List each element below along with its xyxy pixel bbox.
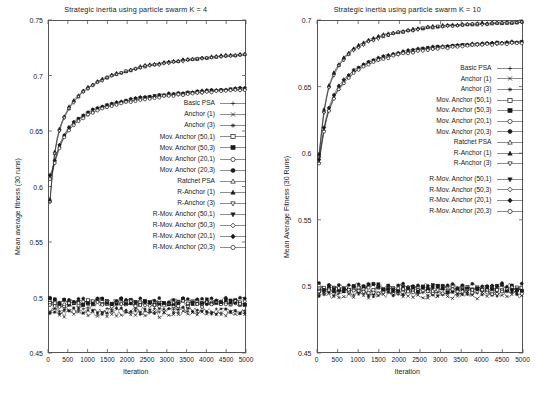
legend-item[interactable]: R-Anchor (1) — [373, 148, 525, 159]
legend-item[interactable]: Mov. Anchor (50,1) — [100, 131, 248, 142]
legend-item-label: Mov. Anchor (50,1) — [436, 97, 494, 104]
legend-item-label: Mov. Anchor (20,3) — [436, 129, 494, 136]
legend-item-label: R-Anchor (3) — [454, 160, 495, 167]
y-tick-label: 0.75 — [8, 17, 43, 24]
legend-item-label: R-Anchor (1) — [177, 189, 218, 196]
x-tick-label: 4000 — [199, 356, 214, 363]
legend-item-marker — [218, 165, 248, 176]
legend-item[interactable]: Ratchet PSA — [100, 176, 248, 187]
legend-item-label: R-Mov. Anchor (50,3) — [429, 187, 494, 194]
legend-item-marker — [218, 142, 248, 153]
x-tick-label: 1000 — [80, 356, 95, 363]
x-tick-label: 3000 — [159, 356, 174, 363]
legend-item-marker — [218, 242, 248, 253]
legend-item[interactable]: R-Mov. Anchor (50,3) — [373, 185, 525, 196]
x-tick-label: 3500 — [179, 356, 194, 363]
legend-item[interactable]: R-Mov. Anchor (50,1) — [100, 209, 248, 220]
legend-item-label: Anchor (3) — [184, 122, 218, 129]
x-tick-label: 2500 — [412, 356, 427, 363]
y-tick-label: 0.5 — [277, 283, 312, 290]
legend-item-marker — [218, 176, 248, 187]
legend-item[interactable]: Anchor (3) — [373, 84, 525, 95]
x-tick-label: 5000 — [239, 356, 254, 363]
legend-item[interactable]: R-Mov. Anchor (50,1) — [373, 174, 525, 185]
legend-item-marker — [495, 137, 525, 148]
legend-item[interactable]: R-Mov. Anchor (20,1) — [100, 231, 248, 242]
legend-item[interactable]: R-Mov. Anchor (20,3) — [100, 242, 248, 253]
y-tick-label: 0.55 — [277, 216, 312, 223]
chart-panel-k10: Strategic inertia using particle swarm K… — [272, 0, 543, 406]
x-tick-label: 2500 — [140, 356, 155, 363]
legend-item[interactable]: Anchor (1) — [100, 109, 248, 120]
y-tick-label: 0.45 — [8, 350, 43, 357]
legend-item-label: Mov. Anchor (50,1) — [160, 134, 218, 141]
legend-item[interactable]: R-Mov. Anchor (20,1) — [373, 195, 525, 206]
legend-item-label: R-Anchor (3) — [177, 200, 218, 207]
legend-item-marker — [218, 209, 248, 220]
y-axis-title: Mean average fitness (30 runs) — [14, 158, 21, 255]
y-tick-label: 0.65 — [8, 128, 43, 135]
legend-item-marker — [218, 187, 248, 198]
chart-legend: Basic PSAAnchor (1)Anchor (3)Mov. Anchor… — [373, 63, 525, 216]
legend-item[interactable]: Mov. Anchor (20,1) — [373, 116, 525, 127]
legend-item-marker — [495, 148, 525, 159]
y-axis-title: Mean Average Fitness (30 Runs) — [283, 156, 290, 258]
legend-item[interactable]: Ratchet PSA — [373, 137, 525, 148]
legend-item[interactable]: R-Mov. Anchor (50,3) — [100, 220, 248, 231]
legend-item-marker — [495, 126, 525, 137]
legend-item[interactable]: R-Mov. Anchor (20,3) — [373, 206, 525, 217]
legend-item[interactable]: R-Anchor (3) — [100, 198, 248, 209]
legend-item-marker — [495, 84, 525, 95]
legend-item-label: Ratchet PSA — [454, 139, 495, 146]
x-axis-title: Iteration — [272, 368, 543, 375]
legend-item-label: R-Mov. Anchor (20,1) — [429, 197, 494, 204]
legend-item-marker — [495, 195, 525, 206]
legend-item-label: Basic PSA — [460, 65, 494, 72]
legend-item[interactable]: Mov. Anchor (20,3) — [100, 165, 248, 176]
x-tick-label: 2000 — [120, 356, 135, 363]
legend-item-marker — [495, 116, 525, 127]
legend-item-label: Anchor (1) — [461, 76, 495, 83]
y-tick-label: 0.7 — [8, 72, 43, 79]
x-tick-label: 3000 — [433, 356, 448, 363]
x-tick-label: 0 — [315, 356, 319, 363]
legend-item[interactable]: Anchor (1) — [373, 74, 525, 85]
legend-item-label: Anchor (3) — [461, 86, 495, 93]
legend-item[interactable]: Basic PSA — [373, 63, 525, 74]
x-tick-label: 500 — [332, 356, 343, 363]
legend-item-label: Mov. Anchor (20,1) — [160, 156, 218, 163]
x-tick-label: 4500 — [495, 356, 510, 363]
legend-item[interactable]: Mov. Anchor (50,1) — [373, 95, 525, 106]
y-tick-label: 0.45 — [277, 350, 312, 357]
x-tick-label: 1000 — [350, 356, 365, 363]
x-tick-label: 0 — [46, 356, 50, 363]
legend-item[interactable]: Mov. Anchor (50,3) — [100, 142, 248, 153]
legend-item-label: R-Mov. Anchor (50,1) — [429, 176, 494, 183]
chart-legend: Basic PSAAnchor (1)Anchor (3)Mov. Anchor… — [100, 98, 248, 253]
legend-item[interactable]: R-Anchor (1) — [100, 187, 248, 198]
legend-item-label: Basic PSA — [184, 100, 218, 107]
legend-item-label: Mov. Anchor (20,1) — [436, 118, 494, 125]
legend-item[interactable]: Basic PSA — [100, 98, 248, 109]
legend-item-marker — [218, 154, 248, 165]
x-tick-label: 2000 — [392, 356, 407, 363]
legend-item[interactable]: Mov. Anchor (20,3) — [373, 127, 525, 138]
legend-item-marker — [218, 231, 248, 242]
legend-item-marker — [495, 206, 525, 217]
chart-panel-k4: Strategic inertia using particle swarm K… — [0, 0, 272, 406]
legend-item-label: R-Mov. Anchor (50,1) — [153, 211, 218, 218]
legend-item-label: Ratchet PSA — [177, 178, 218, 185]
legend-item-label: Mov. Anchor (50,3) — [160, 145, 218, 152]
x-tick-label: 1500 — [100, 356, 115, 363]
legend-item-label: Mov. Anchor (50,3) — [436, 107, 494, 114]
legend-item[interactable]: Mov. Anchor (50,3) — [373, 105, 525, 116]
figure-container: Strategic inertia using particle swarm K… — [0, 0, 543, 406]
legend-item-marker — [495, 105, 525, 116]
x-tick-label: 3500 — [453, 356, 468, 363]
x-tick-label: 5000 — [515, 356, 530, 363]
legend-item[interactable]: Anchor (3) — [100, 120, 248, 131]
legend-item[interactable]: R-Anchor (3) — [373, 158, 525, 169]
legend-item[interactable]: Mov. Anchor (20,1) — [100, 153, 248, 164]
legend-item-marker — [218, 98, 248, 109]
legend-item-label: R-Anchor (1) — [454, 150, 495, 157]
